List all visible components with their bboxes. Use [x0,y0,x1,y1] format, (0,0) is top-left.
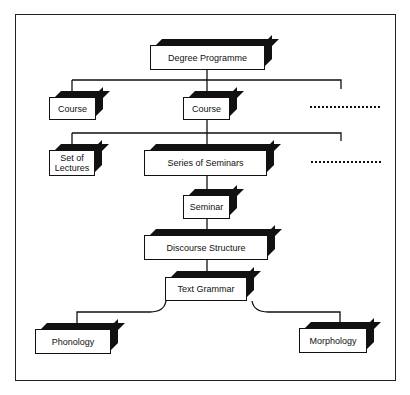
edge-text-morphology [252,301,340,323]
node-course-left: Course [49,97,96,120]
node-label: Morphology [309,336,356,346]
ellipsis-dots-row-1 [309,105,381,109]
node-label: Degree Programme [168,53,247,63]
node-morphology: Morphology [299,328,367,353]
node-label: Course [58,104,87,114]
node-discourse-structure: Discourse Structure [144,235,268,260]
node-degree-programme: Degree Programme [150,45,265,70]
node-label: Series of Seminars [167,158,243,168]
node-course-center: Course [183,97,230,120]
node-series-of-seminars: Series of Seminars [144,150,267,176]
node-seminar: Seminar [183,195,230,219]
node-label: Set of Lectures [52,153,92,173]
node-phonology: Phonology [35,329,111,354]
ellipsis-dots-row-2 [310,160,382,164]
node-label: Text Grammar [177,284,234,294]
edge-text-phonology [77,301,166,324]
node-label: Discourse Structure [166,243,245,253]
node-label: Phonology [52,337,95,347]
node-set-of-lectures: Set of Lectures [49,150,95,176]
node-label: Course [192,104,221,114]
node-text-grammar: Text Grammar [165,277,247,301]
node-label: Seminar [190,202,224,212]
